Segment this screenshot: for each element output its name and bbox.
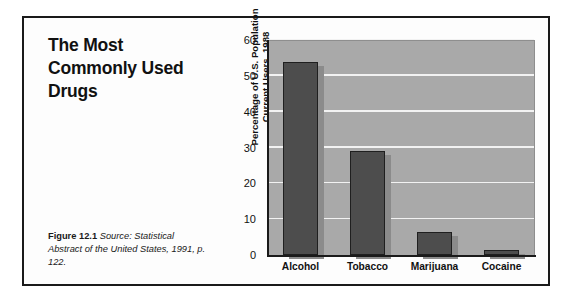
y-axis-tick-label: 10 xyxy=(244,213,256,225)
title-line-2: Commonly Used xyxy=(48,57,208,80)
bar-alcohol[interactable] xyxy=(283,41,318,255)
figure-caption: Figure 12.1 Source: Statistical Abstract… xyxy=(48,230,210,268)
y-axis-tick-label: 20 xyxy=(244,177,256,189)
x-axis-tick-label: Cocaine xyxy=(482,261,522,272)
title-line-3: Drugs xyxy=(48,80,208,103)
text-column: The Most Commonly Used Drugs Figure 12.1… xyxy=(36,18,214,284)
bar-body xyxy=(350,151,385,255)
page-title: The Most Commonly Used Drugs xyxy=(48,34,208,102)
x-axis-tick-label: Tobacco xyxy=(347,261,388,272)
y-axis-tick-label: 30 xyxy=(244,142,256,154)
bar-marijuana[interactable] xyxy=(417,41,452,255)
chart-region: Percentage of U.S. Population Current Us… xyxy=(192,18,550,284)
x-axis-tick-label: Alcohol xyxy=(282,261,319,272)
figure-frame: The Most Commonly Used Drugs Figure 12.1… xyxy=(22,16,550,286)
gridline xyxy=(267,39,534,41)
plot-area xyxy=(267,40,535,255)
bar-body xyxy=(417,232,452,255)
y-axis-tick-label: 60 xyxy=(244,34,256,46)
y-axis-tick-label: 0 xyxy=(250,249,256,261)
figure-caption-label: Figure 12.1 xyxy=(48,231,97,241)
bar-body xyxy=(283,62,318,256)
y-axis-tick-labels: 0102030405060 xyxy=(230,40,256,255)
x-axis-line xyxy=(267,255,536,257)
title-line-1: The Most xyxy=(48,34,208,57)
y-axis-tick-label: 50 xyxy=(244,70,256,82)
x-axis-tick-labels: AlcoholTobaccoMarijuanaCocaine xyxy=(267,261,535,281)
y-axis-tick-label: 40 xyxy=(244,106,256,118)
y-axis-line xyxy=(267,40,269,256)
x-axis-tick-label: Marijuana xyxy=(411,261,459,272)
bar-tobacco[interactable] xyxy=(350,41,385,255)
bar-cocaine[interactable] xyxy=(484,41,519,255)
